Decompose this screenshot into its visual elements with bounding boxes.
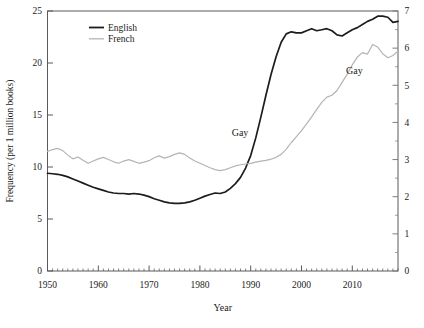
gay-word-frequency-chart: 1950196019701980199020002010051015202501… (0, 0, 424, 328)
x-tick-label: 1970 (140, 280, 159, 290)
line-chart-canvas: 1950196019701980199020002010051015202501… (0, 0, 424, 328)
y-right-tick-label: 3 (405, 155, 410, 165)
y-left-tick-label: 15 (33, 110, 43, 120)
y-right-tick-label: 5 (405, 81, 410, 91)
y-left-tick-label: 10 (33, 162, 43, 172)
plot-border (48, 11, 399, 271)
x-tick-label: 1990 (241, 280, 260, 290)
y-left-tick-label: 25 (33, 6, 43, 16)
y-right-tick-label: 4 (405, 118, 410, 128)
x-tick-label: 1950 (38, 280, 57, 290)
series-line-french (48, 44, 399, 170)
x-tick-label: 2010 (343, 280, 362, 290)
annotation-english: Gay (232, 127, 249, 138)
legend-label-french: French (108, 34, 135, 44)
y-right-tick-label: 6 (405, 43, 410, 53)
y-right-tick-label: 2 (405, 192, 410, 202)
x-tick-label: 1960 (89, 280, 108, 290)
legend-label-english: English (108, 23, 137, 33)
y-right-tick-label: 0 (405, 266, 410, 276)
x-tick-label: 2000 (292, 280, 311, 290)
y-right-tick-label: 7 (405, 6, 410, 16)
y-axis-title: Frequency (per 1 million books) (5, 80, 16, 203)
y-left-tick-label: 0 (37, 266, 42, 276)
x-tick-label: 1980 (190, 280, 209, 290)
y-left-tick-label: 20 (33, 58, 43, 68)
series-line-english (48, 16, 399, 203)
y-left-tick-label: 5 (37, 214, 42, 224)
y-right-tick-label: 1 (405, 229, 410, 239)
annotation-french: Gay (346, 65, 363, 76)
x-axis-title: Year (214, 302, 233, 313)
